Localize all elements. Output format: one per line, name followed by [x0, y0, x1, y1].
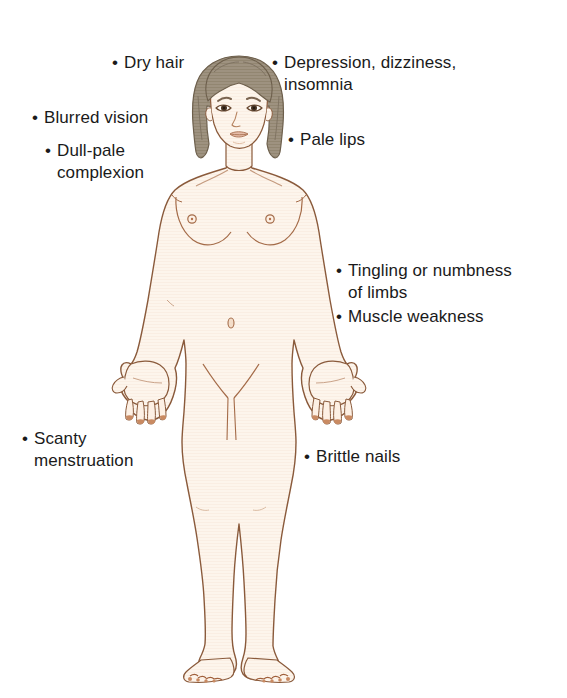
nipple-left-center	[191, 218, 193, 220]
ear-left	[206, 108, 212, 121]
callout-pale-lips-text: Pale lips	[300, 129, 365, 151]
bullet-icon: •	[32, 107, 44, 129]
bullet-icon: •	[272, 52, 284, 74]
callout-depression-text: Depression, dizziness, insomnia	[284, 52, 456, 96]
nipple-right-center	[269, 218, 271, 220]
callout-scanty-text: Scanty menstruation	[34, 428, 133, 472]
bullet-icon: •	[336, 306, 348, 328]
callout-scanty-menstruation: •Scanty menstruation	[22, 406, 192, 472]
bullet-icon: •	[45, 140, 57, 162]
bullet-icon: •	[304, 446, 316, 468]
callout-pale-lips: •Pale lips	[288, 107, 365, 151]
callout-dull-pale-text: Dull-pale complexion	[57, 140, 144, 184]
pupil-left	[223, 107, 226, 110]
callout-depression-dizziness-insomnia: •Depression, dizziness, insomnia	[272, 30, 522, 96]
callout-dull-pale-complexion: •Dull-pale complexion	[45, 118, 185, 184]
foot-right	[244, 658, 294, 683]
bullet-icon: •	[112, 52, 124, 74]
navel	[228, 318, 234, 328]
callout-brittle-nails: •Brittle nails	[304, 424, 400, 468]
callout-dry-hair: •Dry hair	[112, 30, 184, 74]
bullet-icon: •	[22, 428, 34, 450]
bullet-icon: •	[288, 129, 300, 151]
callout-dry-hair-text: Dry hair	[124, 52, 184, 74]
callout-brittle-nails-text: Brittle nails	[316, 446, 400, 468]
foot-left	[184, 658, 234, 683]
callout-muscle-weakness-text: Muscle weakness	[348, 306, 484, 328]
ear-right	[266, 108, 272, 121]
pupil-right	[253, 107, 256, 110]
callout-muscle-weakness: •Muscle weakness	[336, 284, 484, 328]
bullet-icon: •	[336, 260, 348, 282]
